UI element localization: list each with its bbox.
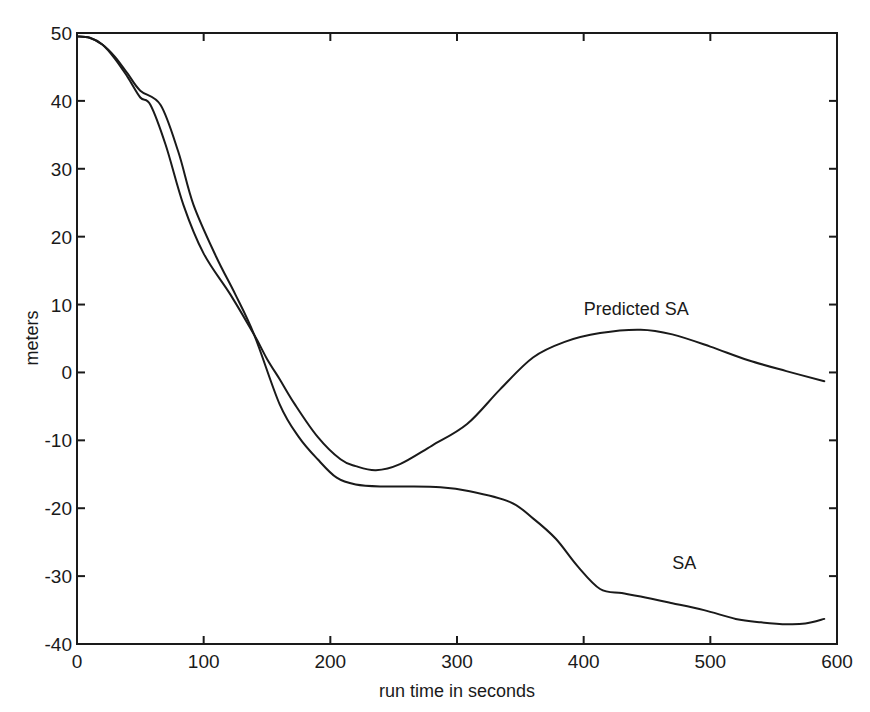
y-tick-label: 10 (51, 295, 72, 316)
series-annotation: SA (672, 553, 696, 573)
x-tick-label: 200 (314, 651, 346, 672)
x-tick-label: 500 (694, 651, 726, 672)
plot-area: 0100200300400500600 50403020100-10-20-30… (45, 23, 853, 672)
y-axis-label: meters (22, 310, 42, 365)
series-annotation: Predicted SA (584, 299, 689, 319)
series-layer (77, 36, 824, 624)
y-tick-label: 30 (51, 159, 72, 180)
series-sa-line (77, 36, 824, 624)
x-tick-label: 400 (568, 651, 600, 672)
series-predicted-sa-line (77, 36, 824, 470)
y-tick-label: -40 (45, 634, 72, 655)
plot-frame (77, 33, 837, 644)
x-tick-label: 100 (188, 651, 220, 672)
y-tick-label: 50 (51, 23, 72, 44)
y-tick-label: 40 (51, 91, 72, 112)
y-tick-label: -30 (45, 566, 72, 587)
x-axis-label: run time in seconds (379, 681, 535, 701)
y-tick-label: -10 (45, 430, 72, 451)
line-chart: 0100200300400500600 50403020100-10-20-30… (0, 0, 870, 712)
y-tick-label: 20 (51, 227, 72, 248)
y-tick-label: -20 (45, 498, 72, 519)
annotation-layer: Predicted SASA (584, 299, 697, 574)
y-axis-ticks: 50403020100-10-20-30-40 (45, 23, 837, 655)
x-tick-label: 600 (821, 651, 853, 672)
x-tick-label: 300 (441, 651, 473, 672)
x-axis-ticks: 0100200300400500600 (72, 33, 853, 672)
x-tick-label: 0 (72, 651, 83, 672)
y-tick-label: 0 (61, 362, 72, 383)
